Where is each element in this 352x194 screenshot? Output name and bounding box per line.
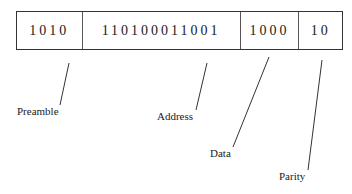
leader-parity [308,60,322,170]
leader-preamble [60,63,69,105]
label-data: Data [210,147,231,159]
leader-data [233,57,269,147]
label-address: Address [157,110,193,122]
leader-address [196,63,207,110]
label-parity: Parity [279,170,305,182]
leader-lines [0,0,352,194]
label-preamble: Preamble [17,105,59,117]
